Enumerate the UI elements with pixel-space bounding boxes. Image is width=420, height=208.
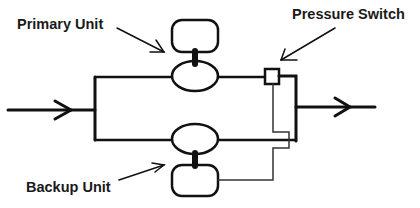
backup-unit bbox=[172, 124, 218, 196]
backup-unit-label: Backup Unit bbox=[26, 180, 111, 195]
pressure-switch-label: Pressure Switch bbox=[292, 7, 405, 22]
primary-leader-arrow bbox=[117, 28, 164, 52]
control-wire bbox=[218, 84, 289, 180]
backup-leader-arrow bbox=[119, 163, 164, 180]
switch-leader-arrow bbox=[281, 28, 335, 60]
pressure-switch bbox=[265, 69, 279, 84]
backup-motor-box bbox=[172, 165, 218, 196]
inlet-arrow bbox=[8, 101, 95, 119]
backup-pump-oval bbox=[172, 124, 218, 154]
primary-motor-box bbox=[172, 20, 218, 52]
primary-unit-label: Primary Unit bbox=[17, 17, 103, 32]
outlet-arrow bbox=[296, 98, 375, 116]
primary-unit bbox=[172, 20, 218, 91]
